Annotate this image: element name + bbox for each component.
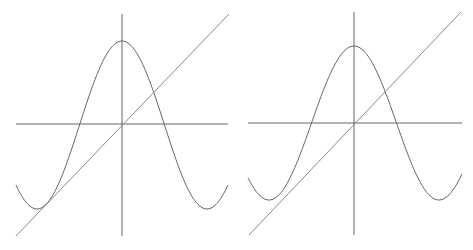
left-plot [16, 14, 229, 236]
right-plot [248, 12, 462, 235]
plots-canvas [0, 0, 473, 250]
right-straight-line [249, 12, 461, 235]
figure [0, 0, 473, 250]
